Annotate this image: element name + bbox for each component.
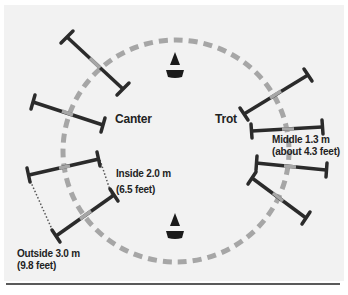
pole-canter-4 xyxy=(52,189,118,242)
inside-distance-metric: Inside 2.0 m xyxy=(116,168,171,180)
canter-label: Canter xyxy=(115,113,152,125)
cone-icon xyxy=(166,52,184,78)
outside-distance-label: Outside 3.0 m (9.8 feet) xyxy=(17,248,80,272)
inside-distance-label: Inside 2.0 m (6.5 feet) xyxy=(116,168,171,196)
inside-distance-imperial: (6.5 feet) xyxy=(116,184,171,196)
outside-measure-line xyxy=(29,178,55,236)
cone-icon xyxy=(166,213,184,239)
outside-distance-metric: Outside 3.0 m xyxy=(17,248,80,260)
trot-label: Trot xyxy=(215,113,237,125)
pole-trot-3 xyxy=(256,156,327,177)
pole-canter-1 xyxy=(61,31,129,95)
bottom-rule xyxy=(6,283,340,285)
middle-distance-imperial: (about 4.3 feet) xyxy=(272,146,340,158)
pole-trot-4 xyxy=(248,172,310,224)
middle-distance-label: Middle 1.3 m (about 4.3 feet) xyxy=(272,134,340,158)
middle-distance-metric: Middle 1.3 m xyxy=(272,134,340,146)
pole-trot-1 xyxy=(240,69,312,120)
outside-distance-imperial: (9.8 feet) xyxy=(17,260,80,272)
